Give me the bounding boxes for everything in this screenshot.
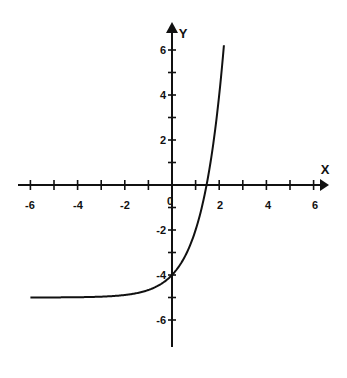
x-tick-label: -6 bbox=[25, 199, 35, 211]
y-tick-label: -6 bbox=[156, 314, 166, 326]
function-graph: -6 -4 -2 2 4 6 0 6 4 2 -2 -4 -6 X Y bbox=[0, 0, 347, 378]
y-axis-label: Y bbox=[179, 26, 188, 41]
x-axis-label: X bbox=[321, 162, 330, 177]
y-tick-label: 6 bbox=[160, 44, 166, 56]
y-axis-arrow-icon bbox=[166, 22, 178, 33]
y-tick-label: 4 bbox=[160, 89, 167, 101]
x-tick-label: 4 bbox=[265, 199, 272, 211]
x-tick-label: 6 bbox=[312, 199, 318, 211]
y-tick-label: -4 bbox=[156, 269, 167, 281]
y-tick-label: -2 bbox=[156, 224, 166, 236]
x-tick-label: -4 bbox=[73, 199, 84, 211]
y-tick-label: 2 bbox=[160, 134, 166, 146]
x-tick-label: 2 bbox=[217, 199, 223, 211]
x-tick-label: -2 bbox=[120, 199, 130, 211]
function-curve bbox=[30, 45, 224, 297]
origin-label: 0 bbox=[167, 195, 173, 207]
x-axis-arrow-icon bbox=[320, 179, 329, 191]
